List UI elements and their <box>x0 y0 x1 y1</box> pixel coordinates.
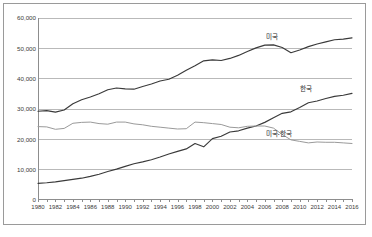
x-tick <box>160 199 161 202</box>
x-tick <box>343 199 344 202</box>
x-tick-label: 2016 <box>340 203 364 211</box>
x-tick <box>47 199 48 202</box>
gridline-10000 <box>38 169 352 170</box>
x-tick <box>239 199 240 202</box>
x-tick <box>291 199 292 202</box>
x-tick <box>317 199 318 202</box>
y-tick-label: 20,000 <box>3 136 36 143</box>
series-label-korea: 한국 <box>300 83 312 93</box>
x-tick <box>134 199 135 202</box>
x-tick <box>204 199 205 202</box>
series-label-usa: 미국 <box>266 31 278 41</box>
x-tick <box>265 199 266 202</box>
gridline-50000 <box>38 48 352 49</box>
gridline-20000 <box>38 139 352 140</box>
x-tick <box>82 199 83 202</box>
x-tick <box>99 199 100 202</box>
y-tick-label: 60,000 <box>3 14 36 21</box>
x-tick <box>274 199 275 202</box>
series-label-gap: 미국-한국 <box>266 128 292 138</box>
y-axis-line <box>38 18 39 200</box>
series-line-usa <box>38 38 352 112</box>
x-tick <box>212 199 213 202</box>
x-tick <box>221 199 222 202</box>
x-tick <box>108 199 109 202</box>
gridline-30000 <box>38 109 352 110</box>
x-tick <box>230 199 231 202</box>
x-tick <box>335 199 336 202</box>
x-tick <box>195 199 196 202</box>
x-tick <box>64 199 65 202</box>
y-tick-label: 50,000 <box>3 45 36 52</box>
y-tick-label: 0 <box>3 196 36 203</box>
y-tick-label: 10,000 <box>3 166 36 173</box>
x-tick <box>352 199 353 202</box>
x-tick <box>247 199 248 202</box>
x-tick <box>300 199 301 202</box>
x-tick <box>186 199 187 202</box>
gridline-60000 <box>38 18 352 19</box>
x-tick <box>256 199 257 202</box>
x-tick <box>125 199 126 202</box>
x-tick <box>90 199 91 202</box>
x-tick <box>282 199 283 202</box>
x-tick <box>326 199 327 202</box>
x-tick <box>73 199 74 202</box>
x-tick <box>38 199 39 202</box>
x-tick <box>169 199 170 202</box>
x-tick <box>178 199 179 202</box>
x-tick <box>308 199 309 202</box>
x-tick <box>55 199 56 202</box>
x-tick <box>151 199 152 202</box>
y-tick-label: 40,000 <box>3 75 36 82</box>
gridline-40000 <box>38 78 352 79</box>
x-tick <box>143 199 144 202</box>
series-line-gap <box>38 122 352 143</box>
line-chart: 60,000 50,000 40,000 30,000 20,000 10,00… <box>0 0 372 237</box>
y-tick-label: 30,000 <box>3 105 36 112</box>
x-tick <box>117 199 118 202</box>
